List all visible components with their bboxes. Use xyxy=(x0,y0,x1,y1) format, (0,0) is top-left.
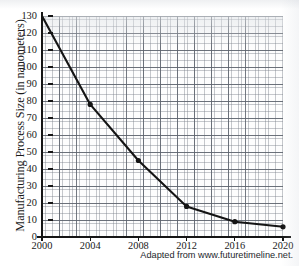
series-line-manufacturing-process-size xyxy=(42,16,283,227)
data-point-marker xyxy=(88,102,93,107)
series-markers xyxy=(88,102,286,230)
data-point-marker xyxy=(280,224,285,229)
series-layer xyxy=(0,0,299,266)
chart-figure: Manufacturing Process Size (in nanometer… xyxy=(0,0,299,266)
data-point-marker xyxy=(136,158,141,163)
source-caption: Adapted from www.futuretimeline.net. xyxy=(140,250,293,260)
data-point-marker xyxy=(232,219,237,224)
data-point-marker xyxy=(184,204,189,209)
